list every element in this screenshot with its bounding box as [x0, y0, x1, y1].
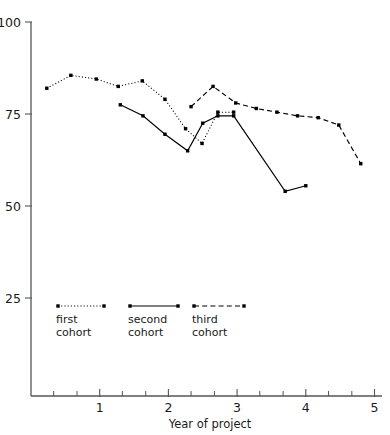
data-point	[232, 110, 235, 113]
data-point	[45, 87, 48, 90]
data-point	[141, 114, 144, 117]
data-point	[163, 98, 166, 101]
data-point	[255, 107, 258, 110]
x-tick-label: 5	[371, 400, 379, 415]
x-axis: 12345	[31, 389, 382, 415]
y-tick-label: 50	[5, 199, 21, 214]
data-point	[69, 74, 72, 77]
legend-marker	[128, 304, 131, 307]
legend-marker	[176, 304, 179, 307]
legend-marker	[102, 304, 105, 307]
line-chart: 255075100 12345 firstcohortsecondcohortt…	[0, 0, 390, 435]
x-tick-label: 4	[302, 400, 310, 415]
data-point	[211, 85, 214, 88]
data-point	[201, 122, 204, 125]
legend-marker	[242, 304, 245, 307]
data-point	[304, 184, 307, 187]
data-point	[163, 133, 166, 136]
x-tick-label: 1	[96, 400, 104, 415]
data-point	[141, 79, 144, 82]
data-point	[316, 116, 319, 119]
data-point	[337, 123, 340, 126]
chart-canvas: 255075100 12345 firstcohortsecondcohortt…	[0, 0, 390, 435]
chart-legend: firstcohortsecondcohortthirdcohort	[56, 304, 246, 339]
legend-item-third: thirdcohort	[192, 304, 246, 339]
y-axis: 255075100	[0, 15, 32, 397]
legend-label-line1: third	[192, 313, 218, 326]
legend-marker	[192, 304, 195, 307]
data-point	[189, 105, 192, 108]
data-point	[232, 114, 235, 117]
data-point	[216, 110, 219, 113]
y-tick-label: 75	[5, 107, 21, 122]
y-tick-label: 100	[0, 15, 21, 30]
legend-item-second: secondcohort	[128, 304, 180, 339]
data-point	[234, 101, 237, 104]
x-tick-group: 12345	[54, 389, 379, 415]
data-point	[200, 142, 203, 145]
legend-label-line2: cohort	[128, 326, 164, 339]
legend-item-first: firstcohort	[56, 304, 106, 339]
data-point	[216, 114, 219, 117]
x-tick-label: 3	[233, 400, 241, 415]
legend-label-line1: first	[56, 313, 78, 326]
data-point	[283, 190, 286, 193]
legend-label-line1: second	[128, 313, 167, 326]
data-point	[359, 162, 362, 165]
data-point	[275, 110, 278, 113]
legend-label-line2: cohort	[192, 326, 228, 339]
data-point	[184, 127, 187, 130]
y-tick-label: 25	[5, 291, 21, 306]
x-tick-label: 2	[164, 400, 172, 415]
series-second-cohort	[119, 103, 308, 193]
y-tick-group: 255075100	[0, 15, 32, 306]
data-point	[186, 149, 189, 152]
legend-label-line2: cohort	[56, 326, 92, 339]
x-axis-title: Year of project	[168, 417, 252, 431]
series-first-cohort	[45, 74, 235, 145]
data-point	[95, 77, 98, 80]
data-point	[117, 85, 120, 88]
legend-marker	[56, 304, 59, 307]
series-group	[45, 74, 362, 193]
series-third-cohort	[189, 85, 362, 166]
data-point	[296, 114, 299, 117]
data-point	[119, 103, 122, 106]
